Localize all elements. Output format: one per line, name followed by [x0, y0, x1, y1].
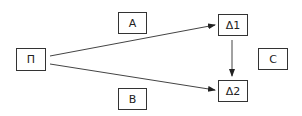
node-delta1: Δ1 — [218, 14, 248, 36]
node-b-label: B — [129, 93, 137, 106]
edge-pi-to-delta2 — [50, 64, 215, 90]
node-c-label: C — [269, 53, 277, 66]
node-c: C — [258, 48, 288, 70]
node-pi: Π — [16, 48, 46, 71]
node-delta2: Δ2 — [218, 80, 248, 102]
node-a-label: A — [129, 17, 137, 30]
node-b: B — [118, 88, 147, 110]
node-a: A — [118, 12, 147, 34]
node-pi-label: Π — [27, 53, 35, 66]
node-delta2-label: Δ2 — [226, 85, 241, 98]
node-delta1-label: Δ1 — [226, 19, 241, 32]
